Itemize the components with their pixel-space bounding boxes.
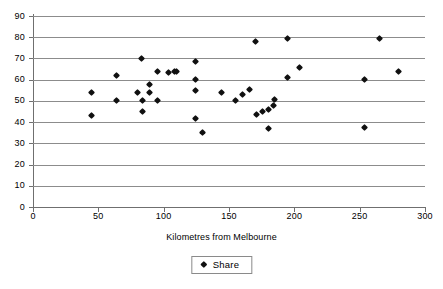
- data-point: [232, 97, 239, 104]
- y-tick-label-70: 70: [0, 54, 25, 63]
- gridline-y-30: [33, 143, 425, 144]
- y-tick-label-80: 80: [0, 33, 25, 42]
- y-tick-label-0: 0: [0, 203, 25, 212]
- data-point: [265, 125, 272, 132]
- plot-area: [33, 16, 425, 207]
- x-axis-title: Kilometres from Melbourne: [0, 232, 443, 243]
- data-point: [191, 58, 198, 65]
- gridline-y-40: [33, 122, 425, 123]
- x-tick-label-150: 150: [214, 212, 244, 221]
- y-tick-label-10: 10: [0, 181, 25, 190]
- data-point: [252, 38, 259, 45]
- gridline-y-80: [33, 37, 425, 38]
- y-tick-label-30: 30: [0, 139, 25, 148]
- x-tick-label-0: 0: [18, 212, 48, 221]
- data-point: [139, 108, 146, 115]
- data-point: [239, 91, 246, 98]
- data-point: [284, 35, 291, 42]
- chart-legend: Share: [191, 256, 252, 274]
- x-tick-label-250: 250: [345, 212, 375, 221]
- data-point: [395, 68, 402, 75]
- y-tick-label-40: 40: [0, 118, 25, 127]
- legend-diamond-icon: [200, 261, 207, 268]
- data-point: [154, 97, 161, 104]
- gridline-y-50: [33, 101, 425, 102]
- data-point: [113, 72, 120, 79]
- data-point: [88, 112, 95, 119]
- data-point: [361, 76, 368, 83]
- y-tick-label-50: 50: [0, 96, 25, 105]
- gridline-y-10: [33, 186, 425, 187]
- y-tick-label-20: 20: [0, 160, 25, 169]
- data-point: [191, 87, 198, 94]
- x-tick-label-300: 300: [410, 212, 440, 221]
- data-point: [218, 89, 225, 96]
- x-tick-label-100: 100: [149, 212, 179, 221]
- data-point: [246, 86, 253, 93]
- data-point: [361, 124, 368, 131]
- data-point: [376, 35, 383, 42]
- data-point: [199, 129, 206, 136]
- x-tick-label-50: 50: [83, 212, 113, 221]
- data-point: [173, 68, 180, 75]
- data-point: [113, 97, 120, 104]
- gridline-y-90: [33, 16, 425, 17]
- data-point: [138, 55, 145, 62]
- data-point: [296, 64, 303, 71]
- data-point: [191, 76, 198, 83]
- y-tick-label-60: 60: [0, 75, 25, 84]
- legend-label-share: Share: [213, 259, 239, 270]
- data-point: [154, 68, 161, 75]
- data-point: [146, 89, 153, 96]
- gridline-y-70: [33, 58, 425, 59]
- y-tick-label-90: 90: [0, 12, 25, 21]
- data-point: [146, 81, 153, 88]
- x-tick-label-200: 200: [279, 212, 309, 221]
- data-point: [139, 97, 146, 104]
- gridline-y-20: [33, 165, 425, 166]
- data-point: [88, 89, 95, 96]
- scatter-chart: 0102030405060708090 050100150200250300 K…: [0, 0, 443, 289]
- data-point: [134, 89, 141, 96]
